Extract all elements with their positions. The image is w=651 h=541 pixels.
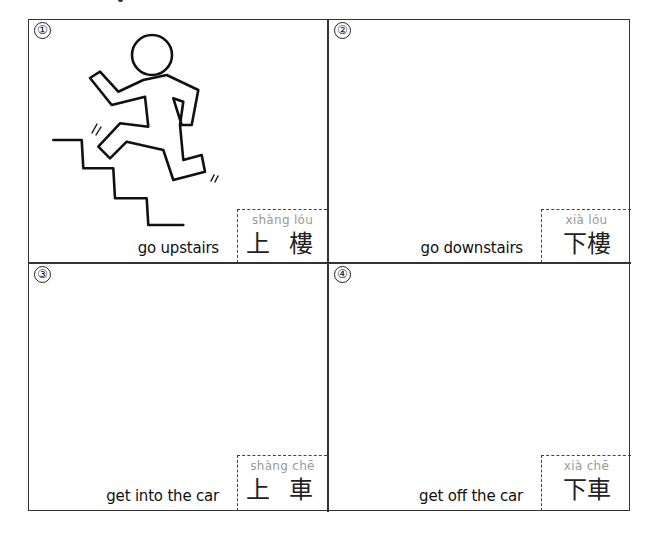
panel-number-badge: ④ (334, 266, 351, 283)
pinyin-label: shàng chē (238, 459, 327, 473)
panel-number-badge: ① (34, 22, 51, 39)
panel-1: ① go upstairs shàng lóu 上 樓 (29, 20, 327, 263)
vocab-box: xià lóu 下樓 (541, 209, 631, 263)
pinyin-label: shàng lóu (238, 213, 327, 227)
english-label: go downstairs (421, 239, 523, 257)
english-label: get into the car (106, 487, 219, 505)
vocab-box: shàng chē 上 車 (237, 455, 327, 511)
hanzi-label: 上 樓 (238, 230, 327, 258)
vocab-box: shàng lóu 上 樓 (237, 209, 327, 263)
panel-number-badge: ③ (34, 266, 51, 283)
panel-2: ② go downstairs xià lóu 下樓 (329, 20, 631, 263)
panel-3: ③ get into the car shàng chē 上 車 (29, 264, 327, 511)
hanzi-label: 下車 (542, 476, 631, 504)
hanzi-label: 上 車 (238, 476, 327, 504)
vocab-box: xià chē 下車 (541, 455, 631, 511)
pinyin-label: xià lóu (542, 213, 631, 227)
cropped-text-fragment (118, 0, 123, 2)
panel-4: ④ get off the car xià chē 下車 (329, 264, 631, 511)
hanzi-label: 下樓 (542, 230, 631, 258)
panel-number-badge: ② (334, 22, 351, 39)
english-label: go upstairs (138, 239, 219, 257)
pinyin-label: xià chē (542, 459, 631, 473)
english-label: get off the car (419, 487, 523, 505)
